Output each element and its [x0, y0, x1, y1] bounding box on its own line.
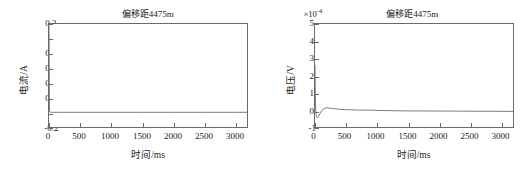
panel-voltage-xtick-5: 2500: [461, 131, 479, 141]
panel-voltage-ytick-mark-0: [315, 24, 319, 25]
panel-voltage-ytick-mark-6: [315, 128, 319, 129]
panel-current-ytick-mark-2: [49, 54, 53, 55]
panel-voltage-y-axis-label: 电压/V: [283, 65, 297, 95]
panel-current-ytick-mark-7: [49, 128, 53, 129]
panel-current-xtick-3: 1500: [133, 131, 151, 141]
panel-current: 偏移距4475m 电流/A 0.2 1 0.8 0.6 0.4 0.2 0 -0…: [0, 0, 262, 177]
panel-voltage-xtick-2: 1000: [367, 131, 385, 141]
panel-voltage-xtick-mark-5: [471, 123, 472, 127]
panel-current-x-axis-label: 时间/ms: [131, 147, 165, 161]
panel-current-xtick-5: 2500: [195, 131, 213, 141]
panel-current-xtick-mark-1: [80, 123, 81, 127]
panel-current-data-canvas: [49, 24, 247, 127]
panel-current-ytick-mark-5: [49, 99, 53, 100]
panel-voltage-data-canvas: [315, 24, 513, 127]
panel-current-series-svg: [49, 24, 247, 127]
panel-current-series-line: [49, 24, 247, 112]
panel-voltage-xtick-mark-4: [440, 123, 441, 127]
panel-voltage-xtick-mark-0: [315, 123, 316, 127]
panel-voltage-title: 偏移距4475m: [262, 7, 523, 20]
panel-voltage-ytick-mark-1: [315, 42, 319, 43]
panel-voltage: 偏移距4475m ×10-4 电压/V 5 4 3 2 1 0 -1: [262, 0, 523, 177]
panel-voltage-xtick-mark-1: [346, 123, 347, 127]
panel-voltage-ytick-mark-2: [315, 59, 319, 60]
panel-current-xtick-mark-6: [236, 123, 237, 127]
panel-current-xtick-4: 2000: [164, 131, 182, 141]
panel-voltage-series-line: [315, 65, 513, 117]
panel-voltage-xtick-4: 2000: [430, 131, 448, 141]
panel-voltage-ytick-mark-4: [315, 94, 319, 95]
panel-current-xtick-mark-0: [49, 123, 50, 127]
panel-current-xtick-6: 3000: [226, 131, 244, 141]
panel-voltage-xtick-mark-3: [409, 123, 410, 127]
panel-voltage-xtick-6: 3000: [492, 131, 510, 141]
panel-current-ytick-mark-4: [49, 84, 53, 85]
panel-current-xtick-mark-4: [174, 123, 175, 127]
panel-voltage-x-axis-label: 时间/ms: [397, 147, 431, 161]
panel-current-ytick-mark-1: [49, 39, 53, 40]
panel-voltage-ytick-mark-5: [315, 112, 319, 113]
panel-current-xtick-mark-2: [111, 123, 112, 127]
panel-voltage-plot-area: [314, 23, 514, 128]
panel-current-ytick-mark-3: [49, 69, 53, 70]
panel-voltage-ytick-mark-3: [315, 77, 319, 78]
panel-current-xtick-0: 0: [46, 131, 51, 141]
panel-current-ytick-mark-6: [49, 114, 53, 115]
panel-voltage-series-svg: [315, 24, 513, 127]
figure-two-panel-plot: 偏移距4475m 电流/A 0.2 1 0.8 0.6 0.4 0.2 0 -0…: [0, 0, 523, 177]
panel-current-xtick-mark-3: [143, 123, 144, 127]
panel-voltage-xtick-1: 500: [338, 131, 352, 141]
panel-voltage-y-multiplier-exponent: -4: [317, 7, 322, 14]
panel-current-ytick-mark-0: [49, 24, 53, 25]
panel-current-xtick-1: 500: [72, 131, 86, 141]
panel-voltage-xtick-mark-2: [377, 123, 378, 127]
panel-current-xtick-mark-5: [205, 123, 206, 127]
panel-current-y-axis-label: 电流/A: [16, 65, 30, 95]
panel-current-title: 偏移距4475m: [0, 7, 262, 20]
panel-voltage-xtick-mark-6: [502, 123, 503, 127]
panel-current-xtick-2: 1000: [101, 131, 119, 141]
panel-voltage-xtick-3: 1500: [399, 131, 417, 141]
panel-voltage-xtick-0: 0: [311, 131, 316, 141]
panel-current-plot-area: [48, 23, 248, 128]
